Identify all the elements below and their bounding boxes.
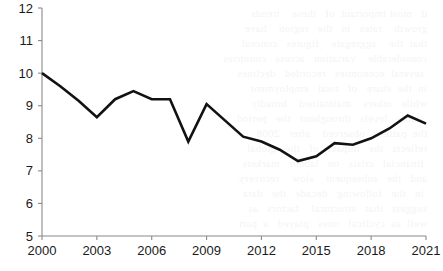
y-axis-tick-label: 5	[26, 229, 33, 244]
y-axis-tick-label: 10	[19, 66, 33, 81]
x-axis-tick-label: 2003	[82, 243, 111, 258]
y-axis-tick-label: 6	[26, 196, 33, 211]
x-axis-tick-label: 2009	[192, 243, 221, 258]
data-series-line	[42, 73, 426, 161]
x-axis-tick-label: 2000	[28, 243, 57, 258]
x-axis-tick-label: 2015	[302, 243, 331, 258]
x-axis-tick-labels: 20002003200620092012201520182021	[28, 243, 441, 258]
line-chart: 56789101112 2000200320062009201220152018…	[0, 0, 443, 271]
y-axis-tick-labels: 56789101112	[19, 1, 33, 244]
y-axis-tick-label: 8	[26, 131, 33, 146]
x-axis-tick-marks	[42, 236, 426, 240]
x-axis-tick-label: 2006	[137, 243, 166, 258]
chart-svg: 56789101112 2000200320062009201220152018…	[0, 0, 443, 271]
y-axis-tick-marks	[38, 8, 42, 236]
y-axis-tick-label: 7	[26, 163, 33, 178]
y-axis-tick-label: 12	[19, 1, 33, 16]
x-axis-tick-label: 2012	[247, 243, 276, 258]
y-axis-tick-label: 11	[20, 33, 34, 48]
y-axis-tick-label: 9	[26, 98, 33, 113]
x-axis-tick-label: 2018	[357, 243, 386, 258]
x-axis-tick-label: 2021	[412, 243, 441, 258]
